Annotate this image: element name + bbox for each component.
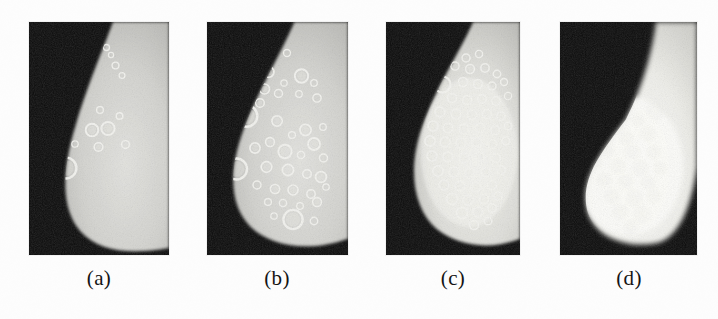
image-panel-c	[386, 22, 520, 255]
figure-root: (a) (b) (c) (d)	[0, 0, 718, 319]
image-panel-b	[207, 22, 348, 255]
film-grain	[29, 22, 169, 255]
scan-image-c	[386, 22, 520, 255]
film-grain	[560, 22, 697, 255]
image-panel-a	[29, 22, 169, 255]
film-grain	[386, 22, 520, 255]
panel-caption-a: (a)	[76, 268, 122, 289]
panel-caption-b: (b)	[254, 268, 300, 289]
scan-image-d	[560, 22, 697, 255]
panel-caption-c: (c)	[430, 268, 476, 289]
scan-image-b	[207, 22, 348, 255]
image-panel-d	[560, 22, 697, 255]
panel-caption-d: (d)	[606, 268, 652, 289]
film-grain	[207, 22, 348, 255]
scan-image-a	[29, 22, 169, 255]
